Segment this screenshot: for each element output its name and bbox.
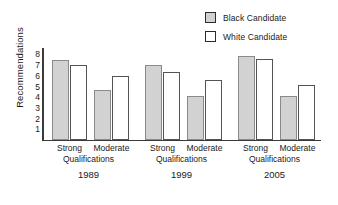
x-label-1989-moderate: Moderate [83,143,140,153]
x-label-qualifications-1999: Qualifications [135,154,228,164]
x-group-year-1999: 1999 [135,169,228,180]
y-tick-6: 6 [28,72,40,81]
bar-1999-strong-white-candidate [163,72,180,140]
bar-2005-moderate-black-candidate [280,96,297,140]
y-tick-7: 7 [28,61,40,70]
y-tick-4: 4 [28,93,40,102]
x-axis-line [42,140,321,141]
y-axis-title: Recommendations [14,14,25,122]
chart-legend: Black Candidate White Candidate [205,9,287,47]
y-axis-ticks: 87654321 [28,48,40,140]
legend-swatch-black-candidate [205,12,216,23]
bar-1999-strong-black-candidate [145,65,162,140]
bar-1999-moderate-white-candidate [205,80,222,140]
bar-2005-strong-black-candidate [238,56,255,141]
y-tick-5: 5 [28,82,40,91]
y-tick-3: 3 [28,104,40,113]
x-label-qualifications-2005: Qualifications [228,154,321,164]
y-tick-2: 2 [28,114,40,123]
x-group-year-1989: 1989 [42,169,135,180]
x-label-qualifications-1989: Qualifications [42,154,135,164]
bar-1999-moderate-black-candidate [187,96,204,140]
x-label-1999-moderate: Moderate [176,143,233,153]
legend-label-white-candidate: White Candidate [223,32,287,42]
bar-1989-moderate-white-candidate [112,76,129,140]
x-group-year-2005: 2005 [228,169,321,180]
plot-area: 87654321 [42,48,321,140]
y-tick-1: 1 [28,125,40,134]
x-label-2005-moderate: Moderate [269,143,326,153]
x-axis-labels: StrongModerateQualifications1989StrongMo… [42,143,321,171]
legend-label-black-candidate: Black Candidate [223,13,286,23]
bar-series-container [42,48,321,140]
y-tick-8: 8 [28,50,40,59]
bar-2005-moderate-white-candidate [298,85,315,140]
legend-swatch-white-candidate [205,31,216,42]
recommendations-bar-chart: Black Candidate White Candidate Recommen… [0,0,338,205]
bar-1989-strong-white-candidate [70,65,87,140]
bar-1989-moderate-black-candidate [94,90,111,140]
bar-2005-strong-white-candidate [256,59,273,140]
legend-item-white-candidate: White Candidate [205,28,287,45]
bar-1989-strong-black-candidate [52,60,69,140]
legend-item-black-candidate: Black Candidate [205,9,287,26]
